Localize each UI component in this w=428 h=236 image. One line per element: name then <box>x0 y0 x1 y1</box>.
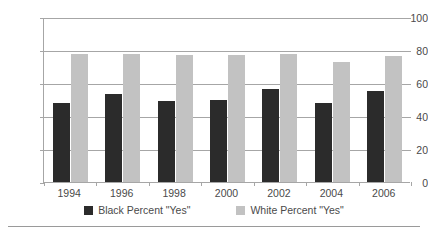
x-axis-label-1994: 1994 <box>43 188 95 199</box>
x-axis-tick-0 <box>44 182 45 186</box>
bar-black-2006 <box>367 91 384 182</box>
bar-black-2000 <box>210 100 227 182</box>
plot-area <box>43 18 410 183</box>
bar-group-1994 <box>53 18 88 182</box>
bar-white-1996 <box>123 54 140 182</box>
legend-label-white: White Percent "Yes" <box>250 205 343 216</box>
y-axis-tick-100 <box>40 18 44 19</box>
bar-group-2006 <box>367 18 402 182</box>
bar-black-2004 <box>315 103 332 182</box>
legend-swatch-white-icon <box>236 206 245 215</box>
bar-group-2000 <box>210 18 245 182</box>
bar-black-1994 <box>53 103 70 182</box>
x-axis-tick-3 <box>201 182 202 186</box>
x-axis-label-2004: 2004 <box>305 188 357 199</box>
bar-white-2004 <box>333 62 350 182</box>
x-axis-label-1998: 1998 <box>148 188 200 199</box>
x-axis-label-1996: 1996 <box>96 188 148 199</box>
bar-group-1996 <box>105 18 140 182</box>
bar-black-1996 <box>105 94 122 182</box>
bar-white-1994 <box>71 54 88 182</box>
x-axis-tick-end <box>411 182 412 186</box>
bar-white-2006 <box>385 56 402 182</box>
x-axis-label-2000: 2000 <box>201 188 253 199</box>
bar-group-2002 <box>262 18 297 182</box>
x-axis-tick-5 <box>306 182 307 186</box>
legend-swatch-black-icon <box>84 206 93 215</box>
x-axis-tick-4 <box>254 182 255 186</box>
bar-black-1998 <box>158 101 175 182</box>
x-axis-label-2006: 2006 <box>358 188 410 199</box>
bar-chart-figure: 020406080100 199419961998200020022004200… <box>0 0 428 236</box>
bar-white-2000 <box>228 55 245 182</box>
bar-group-1998 <box>158 18 193 182</box>
y-axis-tick-20 <box>40 150 44 151</box>
y-axis-tick-80 <box>40 51 44 52</box>
legend-item-black: Black Percent "Yes" <box>84 205 190 216</box>
bar-black-2002 <box>262 89 279 182</box>
x-axis-tick-2 <box>149 182 150 186</box>
bar-group-2004 <box>315 18 350 182</box>
bar-white-1998 <box>176 55 193 182</box>
legend-label-black: Black Percent "Yes" <box>98 205 190 216</box>
y-axis-tick-40 <box>40 117 44 118</box>
x-axis-tick-6 <box>359 182 360 186</box>
bar-white-2002 <box>280 54 297 182</box>
bottom-divider <box>8 226 420 227</box>
legend-item-white: White Percent "Yes" <box>236 205 343 216</box>
x-axis-tick-1 <box>96 182 97 186</box>
y-axis-tick-60 <box>40 84 44 85</box>
x-axis-label-2002: 2002 <box>253 188 305 199</box>
chart-legend: Black Percent "Yes"White Percent "Yes" <box>0 205 428 216</box>
